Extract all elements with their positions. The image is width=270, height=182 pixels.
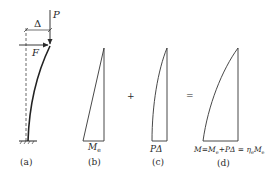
moment-diagram-total <box>203 48 238 141</box>
moment-diagram-p-delta <box>152 48 167 141</box>
plus-operator: + <box>127 91 135 101</box>
caption-b: (b) <box>88 157 101 167</box>
delta-label: Δ <box>34 18 41 29</box>
panel-b-first-order-moment: Me (b) <box>83 48 104 167</box>
panel-a-column: Δ P F (a) <box>19 9 60 167</box>
load-f-label: F <box>31 47 40 58</box>
caption-d: (d) <box>217 158 230 168</box>
me-label: Me <box>87 142 101 153</box>
equals-operator: = <box>186 91 194 101</box>
p-delta-effect-diagram: Δ P F (a) Me (b) + PΔ (c) = M=Me+PΔ = ηe… <box>0 0 270 182</box>
moment-diagram-me <box>83 48 104 141</box>
caption-c: (c) <box>152 157 164 167</box>
caption-a: (a) <box>20 157 32 167</box>
p-delta-label: PΔ <box>149 144 163 154</box>
load-p-label: P <box>52 9 60 20</box>
deflected-column <box>28 46 50 141</box>
panel-c-p-delta-moment: PΔ (c) <box>149 48 167 167</box>
total-moment-equation: M=Me+PΔ = ηeMe <box>193 145 265 155</box>
panel-d-total-moment: M=Me+PΔ = ηeMe (d) <box>193 48 265 168</box>
